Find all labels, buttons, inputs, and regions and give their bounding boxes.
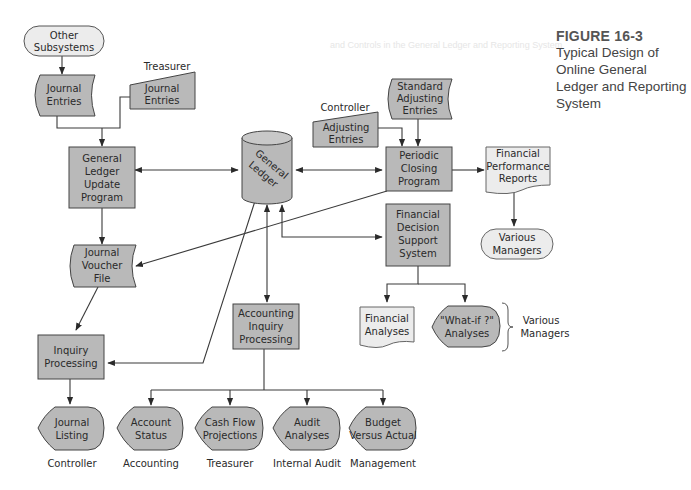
label: Budget — [365, 417, 401, 428]
label: Account — [131, 417, 171, 428]
various-managers-label: Various — [523, 315, 560, 326]
output-journal-listing-display: Journal Listing Controller — [38, 407, 104, 469]
label: Financial — [496, 148, 540, 159]
label: Status — [135, 430, 167, 441]
label: Journal — [46, 83, 82, 94]
label: Accounting — [238, 308, 294, 319]
label: Closing — [401, 163, 438, 174]
label: General — [82, 153, 121, 164]
label: Entries — [403, 105, 438, 116]
other-subsystems-terminal: Other Subsystems — [24, 26, 104, 56]
treasurer-journal-entries-manual-input: Journal Entries — [130, 72, 195, 109]
label: Entries — [145, 95, 180, 106]
caption: Internal Audit — [273, 458, 341, 469]
label: Journal — [54, 417, 90, 428]
various-managers-label: Managers — [520, 328, 569, 339]
label: Processing — [44, 358, 97, 369]
inquiry-processing-process: Inquiry Processing — [38, 335, 104, 379]
label: System — [399, 248, 436, 259]
label: Audit — [294, 417, 320, 428]
label: Reports — [499, 173, 537, 184]
label: Analyses — [365, 326, 410, 337]
caption: Management — [350, 458, 416, 469]
gl-update-program-process: General Ledger Update Program — [69, 147, 135, 208]
label: Adjusting — [323, 122, 370, 133]
whatif-analyses-display: "What-if ?" Analyses — [432, 306, 500, 347]
label: Financial — [396, 209, 440, 220]
label: Adjusting — [397, 93, 444, 104]
label: Journal — [144, 83, 180, 94]
label: Entries — [47, 96, 82, 107]
treasurer-label: Treasurer — [143, 61, 191, 72]
label: Subsystems — [34, 42, 94, 53]
journal-voucher-file-stored-data: Journal Voucher File — [70, 245, 136, 287]
figure-number: FIGURE 16-3 — [556, 28, 691, 44]
output-cash-flow-projections-display: Cash Flow Projections Treasurer — [195, 407, 263, 469]
label: Ledger — [85, 166, 120, 177]
label: Inquiry — [249, 321, 284, 332]
label: Processing — [239, 334, 292, 345]
label: Voucher — [82, 260, 124, 271]
financial-decision-support-system-process: Financial Decision Support System — [386, 204, 450, 266]
label: File — [94, 273, 111, 284]
output-account-status-display: Account Status Accounting — [117, 407, 183, 469]
label: Periodic — [399, 150, 438, 161]
label: Entries — [329, 134, 364, 145]
caption: Controller — [47, 458, 97, 469]
label: Projections — [203, 430, 258, 441]
label: Versus Actual — [349, 430, 417, 441]
accounting-inquiry-processing-process: Accounting Inquiry Processing — [233, 304, 299, 349]
label: Various — [499, 232, 536, 243]
label: Managers — [492, 245, 541, 256]
label: Financial — [365, 313, 409, 324]
journal-entries-stored-data: Journal Entries — [35, 75, 95, 116]
brace — [502, 303, 513, 351]
figure-title: Typical Design of Online General Ledger … — [556, 44, 691, 112]
label: Decision — [397, 222, 440, 233]
figure-caption: FIGURE 16-3 Typical Design of Online Gen… — [556, 28, 691, 112]
label: Cash Flow — [205, 417, 256, 428]
label: Other — [50, 30, 79, 41]
controller-label: Controller — [320, 102, 370, 113]
label: Support — [398, 235, 438, 246]
adjusting-entries-manual-input: Adjusting Entries — [313, 112, 378, 147]
label: Analyses — [445, 328, 490, 339]
caption: Accounting — [123, 458, 179, 469]
general-ledger-database: General Ledger — [242, 131, 292, 204]
label: Update — [84, 179, 120, 190]
label: Program — [398, 176, 440, 187]
output-audit-analyses-display: Audit Analyses Internal Audit — [273, 407, 341, 469]
periodic-closing-program-process: Periodic Closing Program — [386, 147, 452, 191]
label: Performance — [486, 161, 549, 172]
caption: Treasurer — [206, 458, 254, 469]
output-budget-versus-actual-display: Budget Versus Actual Management — [349, 407, 417, 469]
financial-performance-reports-document: Financial Performance Reports — [486, 147, 550, 194]
label: Standard — [397, 81, 443, 92]
label: Program — [81, 192, 123, 203]
label: Inquiry — [54, 345, 89, 356]
label: Journal — [84, 247, 120, 258]
financial-analyses-document: Financial Analyses — [360, 307, 414, 348]
label: "What-if ?" — [440, 315, 494, 326]
label: Listing — [56, 430, 89, 441]
various-managers-terminal: Various Managers — [481, 229, 553, 259]
label: Analyses — [285, 430, 330, 441]
standard-adjusting-entries-stored-data: Standard Adjusting Entries — [388, 79, 452, 119]
